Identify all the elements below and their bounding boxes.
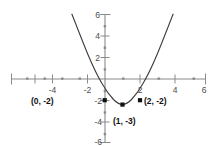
parabola-graph-figure: -4 -2 2 4 6 6 4 2 -2 -4 -6 (0, -2) (1, -… <box>0 0 210 146</box>
y-minor-dot-minus-3 <box>104 111 106 113</box>
y-tick-label-4: 4 <box>95 31 100 41</box>
symmetric-point-marker <box>138 98 142 102</box>
vertex-point-marker <box>120 103 124 107</box>
y-tick-label-6: 6 <box>95 10 100 20</box>
x-minor-dot-1 <box>122 78 125 80</box>
x-tick-label-minus-2: -2 <box>84 85 92 95</box>
x-minor-dot-minus-2-5 <box>79 78 82 80</box>
x-minor-dot-minus-4-5 <box>26 78 29 80</box>
x-tick-label-4: 4 <box>173 85 178 95</box>
y-minor-dot-3 <box>104 47 106 49</box>
y-intercept-point-label: (0, -2) <box>31 96 54 106</box>
y-tick-label-minus-2: -2 <box>94 96 102 106</box>
y-minor-dot-5 <box>104 25 106 27</box>
y-minor-dot-1 <box>104 68 106 70</box>
coordinate-plane: -4 -2 2 4 6 6 4 2 -2 -4 -6 (0, -2) (1, -… <box>0 0 210 146</box>
y-intercept-point-marker <box>103 98 107 102</box>
x-tick-label-6: 6 <box>202 85 207 95</box>
x-minor-dot-minus-3-5 <box>44 78 47 80</box>
x-minor-dot-minus-3 <box>61 78 64 80</box>
y-tick-label-minus-6: -6 <box>94 137 102 146</box>
x-minor-dot-3 <box>158 78 161 80</box>
x-tick-label-minus-4: -4 <box>49 85 57 95</box>
x-axis <box>11 74 206 85</box>
symmetric-point-label: (2, -2) <box>144 96 167 106</box>
x-minor-dot-5 <box>193 78 196 80</box>
y-tick-label-minus-4: -4 <box>94 117 102 127</box>
y-tick-label-2: 2 <box>95 53 100 63</box>
vertex-point-label: (1, -3) <box>113 116 136 126</box>
y-minor-dot-minus-5 <box>104 133 106 135</box>
